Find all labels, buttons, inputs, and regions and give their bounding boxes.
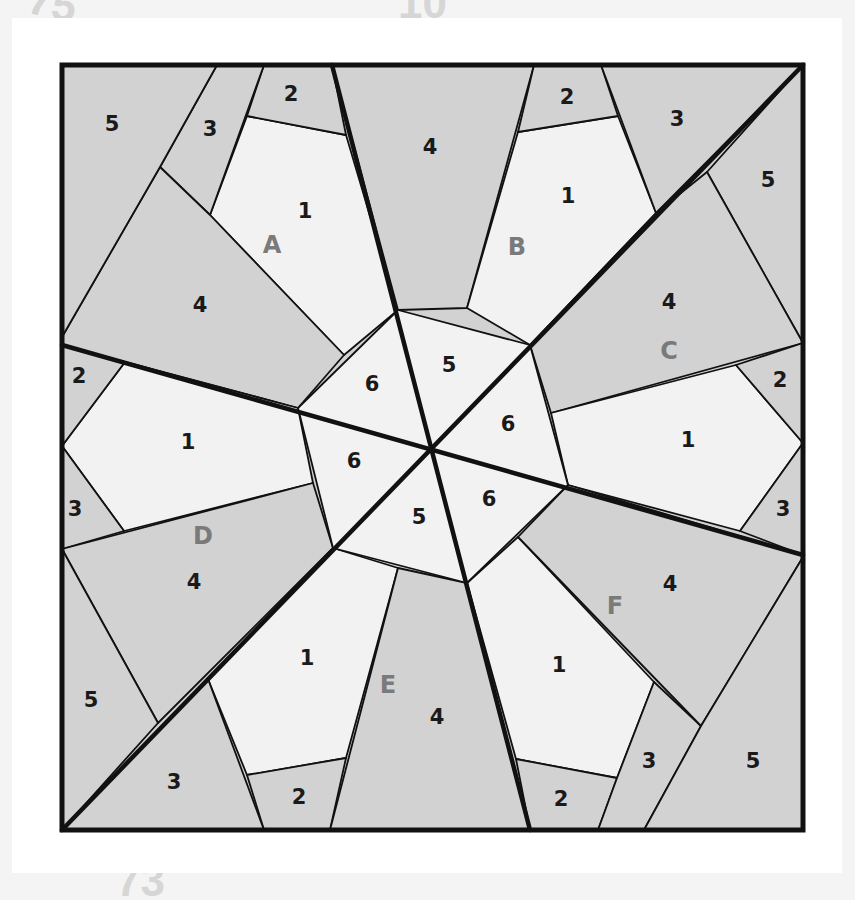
piece-number: 5 — [746, 749, 761, 773]
piece-number: 4 — [662, 290, 677, 314]
piece-number: 2 — [292, 785, 307, 809]
piece-number: 5 — [412, 505, 427, 529]
piece-number: 3 — [68, 497, 83, 521]
piece-number: 5 — [442, 353, 457, 377]
piece-number: 1 — [298, 199, 313, 223]
piece-number: 3 — [167, 770, 182, 794]
piece-number: 5 — [105, 112, 120, 136]
piece-number: 1 — [300, 646, 315, 670]
piece-number: 4 — [187, 570, 202, 594]
block-label-f: F — [607, 592, 623, 620]
piece-number: 3 — [776, 497, 791, 521]
piece-number: 1 — [561, 184, 576, 208]
piece-number: 1 — [681, 428, 696, 452]
block-label-d: D — [193, 522, 213, 550]
piece-number: 6 — [365, 372, 380, 396]
block-label-a: A — [263, 231, 282, 259]
piece-number: 6 — [347, 449, 362, 473]
block-label-b: B — [508, 233, 526, 261]
piece-number: 4 — [423, 135, 438, 159]
piece-number: 3 — [670, 107, 685, 131]
block-label-c: C — [660, 337, 678, 365]
piece-number: 6 — [482, 487, 497, 511]
piece-number: 6 — [501, 412, 516, 436]
piece-number: 4 — [193, 293, 208, 317]
piece-number: 2 — [560, 85, 575, 109]
piece-number: 2 — [72, 364, 87, 388]
piece-number: 4 — [430, 705, 445, 729]
piece-number: 4 — [663, 572, 678, 596]
piece-number: 2 — [554, 787, 569, 811]
piece-number: 5 — [761, 168, 776, 192]
block-label-e: E — [380, 671, 396, 699]
piece-number: 1 — [552, 653, 567, 677]
piece-number: 1 — [181, 430, 196, 454]
piece-number: 2 — [773, 368, 788, 392]
piece-number: 3 — [203, 117, 218, 141]
piece-number: 5 — [84, 688, 99, 712]
piece-number: 2 — [284, 82, 299, 106]
piece-number: 3 — [642, 749, 657, 773]
